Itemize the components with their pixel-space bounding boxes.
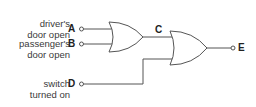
input-a-terminal bbox=[80, 27, 84, 31]
input-d-terminal bbox=[80, 82, 84, 86]
input-a-label-line1: driver's bbox=[27, 18, 70, 29]
output-e-terminal bbox=[231, 46, 235, 50]
intermediate-c-letter: C bbox=[155, 24, 162, 35]
wire-d bbox=[84, 59, 175, 84]
input-d-label: switch turned on bbox=[30, 78, 70, 100]
or-gate-1 bbox=[109, 22, 143, 52]
input-a-letter: A bbox=[68, 23, 75, 34]
input-b-label-line2: door open bbox=[19, 49, 70, 60]
input-d-label-line1: switch bbox=[30, 78, 70, 89]
output-e-letter: E bbox=[238, 42, 245, 53]
or-gate-2 bbox=[170, 31, 207, 65]
input-d-letter: D bbox=[68, 78, 75, 89]
input-b-label-line1: passenger's bbox=[19, 38, 70, 49]
input-d-label-line2: turned on bbox=[30, 89, 70, 100]
input-b-letter: B bbox=[68, 38, 75, 49]
input-b-terminal bbox=[80, 42, 84, 46]
input-a-label: driver's door open bbox=[27, 18, 70, 40]
input-b-label: passenger's door open bbox=[19, 38, 70, 60]
